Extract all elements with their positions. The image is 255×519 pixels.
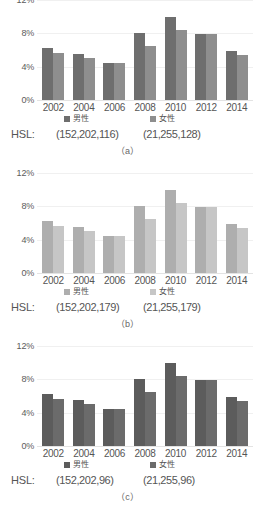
legend-item-male: 男性 [64, 288, 89, 296]
bar-male[interactable] [103, 409, 114, 447]
legend-item-female: 女性 [150, 461, 175, 469]
bar-male[interactable] [226, 51, 237, 100]
bar-female[interactable] [206, 380, 217, 446]
bar-male[interactable] [165, 363, 176, 446]
bar-group [191, 0, 222, 100]
bar-group [160, 173, 191, 273]
bar-female[interactable] [114, 63, 125, 100]
bar-male[interactable] [103, 236, 114, 274]
legend-swatch-icon [150, 462, 156, 468]
bar-female[interactable] [237, 401, 248, 446]
x-axis-tick-label: 2008 [130, 274, 161, 287]
y-axis-tick-label: 12% [17, 169, 34, 178]
hsl-value-male: (152,202,179) [56, 300, 119, 314]
legend-swatch-icon [150, 116, 156, 122]
chart-panel-a: 0%4%8%12%2002200420062008201020122014男性女… [0, 0, 255, 173]
x-axis-tick-label: 2006 [99, 447, 130, 460]
bar-group [99, 0, 130, 100]
y-axis-tick-label: 8% [21, 202, 34, 211]
bar-female[interactable] [145, 392, 156, 446]
bar-female[interactable] [237, 228, 248, 273]
bar-male[interactable] [195, 207, 206, 273]
bar-male[interactable] [195, 380, 206, 446]
bar-female[interactable] [53, 399, 64, 447]
y-axis-tick-label: 4% [21, 236, 34, 245]
x-axis-labels: 2002200420062008201020122014 [38, 447, 252, 460]
bar-group [130, 173, 161, 273]
y-axis-tick-label: 4% [21, 409, 34, 418]
bar-group [99, 173, 130, 273]
x-axis-tick-label: 2004 [69, 274, 100, 287]
bar-female[interactable] [176, 376, 187, 446]
legend-item-female: 女性 [150, 288, 175, 296]
bar-group [191, 346, 222, 446]
figure-sheet: 0%4%8%12%2002200420062008201020122014男性女… [0, 0, 255, 519]
hsl-value-male: (152,202,96) [56, 473, 114, 487]
bar-male[interactable] [165, 190, 176, 273]
y-axis-tick-label: 4% [21, 63, 34, 72]
bar-female[interactable] [145, 46, 156, 100]
chart-panel-b: 0%4%8%12%2002200420062008201020122014男性女… [0, 173, 255, 346]
bar-female[interactable] [84, 231, 95, 274]
bar-series-container [38, 346, 252, 446]
hsl-label: HSL: [11, 127, 35, 141]
bar-male[interactable] [73, 54, 84, 100]
bar-female[interactable] [237, 55, 248, 100]
hsl-value-male: (152,202,116) [56, 127, 118, 141]
x-axis-labels: 2002200420062008201020122014 [38, 101, 252, 114]
x-axis-tick-label: 2002 [38, 447, 69, 460]
bar-series-container [38, 0, 252, 100]
bar-male[interactable] [226, 397, 237, 446]
legend-label: 女性 [159, 115, 175, 123]
bar-female[interactable] [206, 207, 217, 273]
bar-male[interactable] [134, 379, 145, 446]
bar-group [221, 346, 252, 446]
bar-group [69, 0, 100, 100]
bar-male[interactable] [226, 224, 237, 273]
bar-male[interactable] [73, 400, 84, 446]
bar-female[interactable] [145, 219, 156, 273]
bar-male[interactable] [134, 33, 145, 100]
x-axis-tick-label: 2006 [99, 274, 130, 287]
bar-male[interactable] [195, 34, 206, 100]
bar-female[interactable] [176, 203, 187, 273]
hsl-label: HSL: [11, 300, 35, 314]
bar-group [130, 346, 161, 446]
bar-male[interactable] [42, 48, 53, 100]
bar-male[interactable] [103, 63, 114, 101]
legend-label: 男性 [73, 115, 89, 123]
x-axis-tick-label: 2014 [221, 101, 252, 114]
legend-item-male: 男性 [64, 461, 89, 469]
bar-female[interactable] [206, 34, 217, 100]
x-axis-tick-label: 2008 [130, 101, 161, 114]
panel-caption: （c） [0, 492, 255, 503]
bar-male[interactable] [42, 221, 53, 273]
hsl-row: HSL:(152,202,179)(21,255,179) [0, 300, 255, 315]
bar-female[interactable] [53, 226, 64, 274]
bar-group [191, 173, 222, 273]
legend-label: 男性 [73, 461, 89, 469]
bar-female[interactable] [84, 58, 95, 101]
legend-swatch-icon [64, 289, 70, 295]
legend-swatch-icon [64, 116, 70, 122]
legend-swatch-icon [64, 462, 70, 468]
legend-swatch-icon [150, 289, 156, 295]
x-axis-tick-label: 2010 [160, 274, 191, 287]
y-axis-labels: 0%4%8%12% [0, 0, 37, 112]
bar-group [160, 346, 191, 446]
bar-male[interactable] [165, 17, 176, 100]
bar-female[interactable] [114, 236, 125, 273]
bar-female[interactable] [114, 409, 125, 446]
bar-female[interactable] [176, 30, 187, 100]
bar-group [221, 173, 252, 273]
x-axis-tick-label: 2004 [69, 447, 100, 460]
bar-female[interactable] [53, 53, 64, 101]
bar-male[interactable] [134, 206, 145, 273]
panel-caption: （b） [0, 319, 255, 330]
bar-female[interactable] [84, 404, 95, 447]
hsl-label: HSL: [11, 473, 35, 487]
bar-male[interactable] [42, 394, 53, 446]
bar-male[interactable] [73, 227, 84, 273]
x-axis-tick-label: 2010 [160, 447, 191, 460]
y-axis-tick-label: 12% [17, 342, 34, 351]
